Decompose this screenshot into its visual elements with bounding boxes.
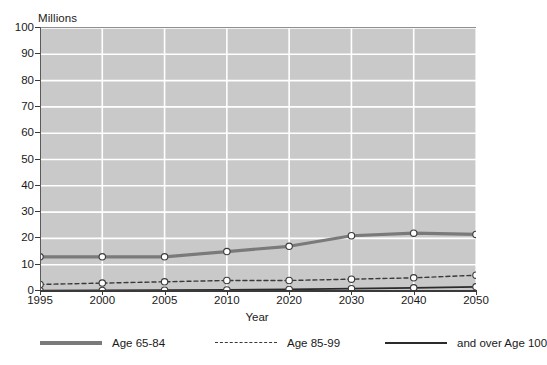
y-tick-mark xyxy=(35,53,40,54)
data-point xyxy=(286,243,292,249)
plot-area xyxy=(40,27,476,290)
y-tick-mark xyxy=(35,80,40,81)
data-point xyxy=(473,272,476,278)
y-tick-mark xyxy=(35,159,40,160)
legend-swatch-sw-thick xyxy=(40,337,102,349)
y-axis-unit-label: Millions xyxy=(38,12,77,24)
legend-swatch-sw-dashed xyxy=(215,337,277,349)
data-point xyxy=(161,279,167,285)
data-point xyxy=(286,277,292,283)
legend-item[interactable]: and over Age 100 xyxy=(385,333,547,353)
x-axis-tick-labels: 19952000200520102020203020402050 xyxy=(40,294,477,310)
data-point xyxy=(411,230,417,236)
data-point xyxy=(411,275,417,281)
data-point xyxy=(224,248,230,254)
y-tick-mark xyxy=(35,132,40,133)
legend-swatch-sw-thin xyxy=(385,337,447,349)
x-tick-mark xyxy=(351,291,352,295)
legend-item[interactable]: Age 85-99 xyxy=(215,333,340,353)
x-tick-mark xyxy=(40,291,41,295)
data-point xyxy=(348,233,354,239)
legend-label: and over Age 100 xyxy=(457,337,547,349)
y-tick-mark xyxy=(35,106,40,107)
x-tick-mark xyxy=(414,291,415,295)
chart-legend: Age 65-84Age 85-99and over Age 100 xyxy=(40,333,480,355)
plot-svg xyxy=(40,28,476,291)
x-tick-mark xyxy=(476,291,477,295)
y-tick-mark xyxy=(35,185,40,186)
legend-label: Age 85-99 xyxy=(287,337,340,349)
data-point xyxy=(224,277,230,283)
data-point xyxy=(99,254,105,260)
y-axis-tick-marks xyxy=(0,27,40,290)
data-point xyxy=(348,276,354,282)
y-tick-mark xyxy=(35,27,40,28)
legend-label: Age 65-84 xyxy=(112,337,165,349)
x-tick-mark xyxy=(289,291,290,295)
x-tick-mark xyxy=(227,291,228,295)
data-point xyxy=(99,280,105,286)
x-axis-title: Year xyxy=(0,311,494,323)
y-tick-mark xyxy=(35,237,40,238)
legend-item[interactable]: Age 65-84 xyxy=(40,333,165,353)
x-axis-tick-marks xyxy=(40,291,477,296)
x-tick-mark xyxy=(102,291,103,295)
y-axis-line xyxy=(40,27,41,291)
series-line-0 xyxy=(40,233,476,257)
x-axis-title-text: Year xyxy=(225,311,268,323)
x-tick-mark xyxy=(165,291,166,295)
data-point xyxy=(161,254,167,260)
y-tick-mark xyxy=(35,264,40,265)
data-point xyxy=(473,231,476,237)
y-tick-mark xyxy=(35,211,40,212)
